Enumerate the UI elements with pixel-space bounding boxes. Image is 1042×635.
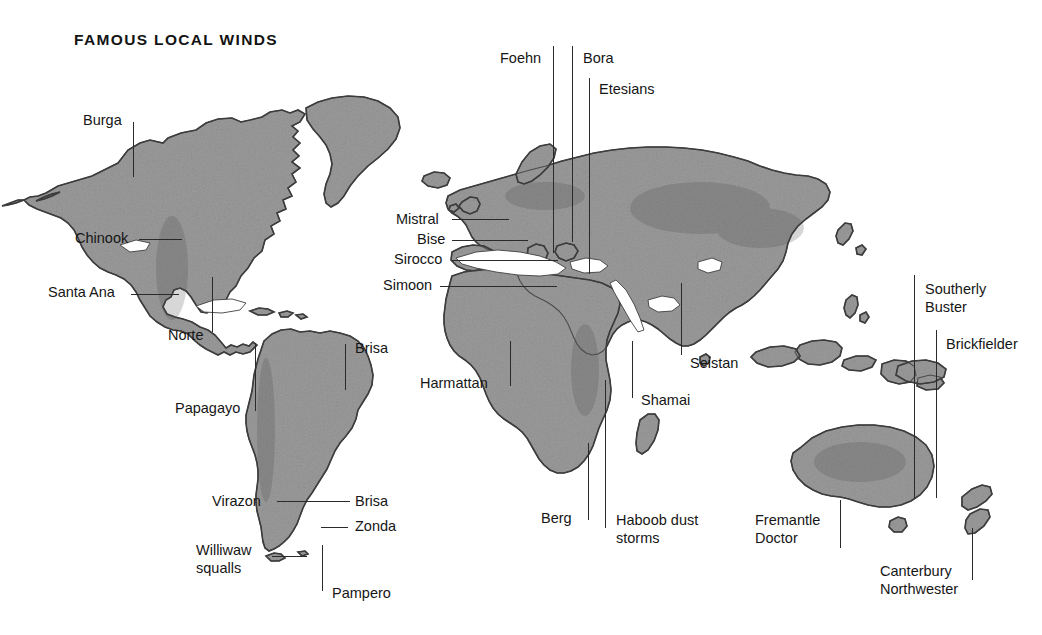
- wind-label-papagayo: Papagayo: [175, 400, 240, 418]
- shamai-leader: [632, 341, 633, 398]
- wind-label-foehn: Foehn: [500, 50, 541, 68]
- wind-label-southerly-buster: Southerly Buster: [925, 281, 986, 316]
- berg-leader: [588, 443, 589, 520]
- mistral-leader: [452, 219, 509, 220]
- wind-label-fremantle-doctor: Fremantle Doctor: [755, 512, 820, 547]
- southerly-buster-leader: [914, 275, 915, 498]
- wind-label-chinook: Chinook: [75, 230, 128, 248]
- fremantle-doctor-leader: [840, 500, 841, 548]
- sirocco-leader: [452, 260, 558, 261]
- wind-label-zonda: Zonda: [355, 518, 396, 536]
- wind-label-etesians: Etesians: [599, 81, 655, 99]
- foehn-leader: [553, 46, 554, 253]
- haboob-dust-storms-leader: [605, 380, 606, 528]
- wind-label-brickfielder: Brickfielder: [946, 336, 1018, 354]
- wind-label-haboob-dust-storms: Haboob dust storms: [616, 512, 698, 547]
- burga-leader: [133, 122, 134, 177]
- papagayo-leader: [255, 343, 256, 411]
- williwaw-squalls-leader: [272, 556, 307, 557]
- annotation-layer: BurgaChinookSanta AnaNorteBrisaPapagayoV…: [0, 0, 1042, 635]
- santa-ana-leader: [131, 294, 179, 295]
- wind-label-virazon: Virazon: [212, 493, 261, 511]
- norte-leader: [212, 277, 213, 332]
- wind-label-brisa-north: Brisa: [355, 340, 388, 358]
- famous-local-winds-figure: FAMOUS LOCAL WINDS: [0, 0, 1042, 635]
- pampero-leader: [322, 545, 323, 591]
- zonda-leader: [321, 527, 348, 528]
- brisa-north-leader: [345, 344, 346, 390]
- harmattan-leader: [510, 341, 511, 386]
- wind-label-shamai: Shamai: [641, 392, 690, 410]
- wind-label-sirocco: Sirocco: [394, 251, 442, 269]
- wind-label-brisa-south: Brisa: [355, 493, 388, 511]
- wind-label-seistan: Seistan: [690, 355, 738, 373]
- wind-label-canterbury-northwester: Canterbury Northwester: [880, 563, 958, 598]
- etesians-leader: [589, 78, 590, 274]
- wind-label-mistral: Mistral: [396, 211, 439, 229]
- wind-label-simoon: Simoon: [383, 277, 432, 295]
- bise-leader: [452, 240, 528, 241]
- wind-label-burga: Burga: [83, 112, 122, 130]
- wind-label-berg: Berg: [541, 510, 572, 528]
- wind-label-bise: Bise: [417, 231, 445, 249]
- brisa-south-leader: [325, 501, 350, 502]
- wind-label-bora: Bora: [583, 50, 614, 68]
- wind-label-santa-ana: Santa Ana: [48, 284, 115, 302]
- canterbury-northwester-leader: [972, 528, 973, 580]
- wind-label-harmattan: Harmattan: [420, 375, 488, 393]
- brickfielder-leader: [936, 330, 937, 498]
- wind-label-norte: Norte: [168, 327, 203, 345]
- seistan-leader: [681, 283, 682, 355]
- wind-label-williwaw-squalls: Williwaw squalls: [196, 542, 252, 577]
- chinook-leader: [139, 239, 182, 240]
- simoon-leader: [440, 286, 557, 287]
- bora-leader: [572, 46, 573, 242]
- wind-label-pampero: Pampero: [332, 585, 391, 603]
